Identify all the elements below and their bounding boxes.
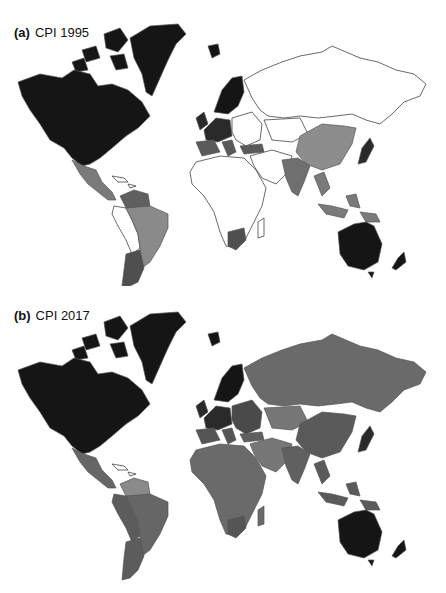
- greenland-region: [130, 312, 186, 384]
- panel-label: (a)CPI 1995: [14, 25, 89, 40]
- australia-region: [338, 510, 382, 558]
- western-europe-region: [204, 406, 232, 430]
- scandinavia-region: [208, 44, 220, 58]
- argentina-chile-region: [122, 250, 144, 286]
- australia-region: [368, 560, 374, 566]
- greenland-region: [130, 24, 186, 96]
- scandinavia-region: [208, 332, 220, 346]
- australia-region: [338, 222, 382, 270]
- southeast-asia-region: [314, 460, 380, 510]
- panel-tag: (a): [14, 25, 30, 40]
- mexico-central-america-region: [72, 448, 116, 488]
- russia-region: [244, 46, 426, 124]
- southern-europe-region: [196, 428, 236, 444]
- australia-region: [368, 272, 374, 278]
- world-map-1995: [0, 0, 446, 286]
- scandinavia-region: [214, 76, 244, 114]
- southeast-asia-region: [314, 172, 380, 222]
- eastern-europe-region: [232, 112, 262, 146]
- turkey-region: [240, 432, 264, 442]
- india-region: [282, 446, 310, 484]
- japan-region: [358, 426, 374, 452]
- panel-tag: (b): [14, 308, 31, 323]
- russia-region: [244, 334, 426, 412]
- panel-title: CPI 2017: [36, 308, 90, 323]
- africa-region: [258, 218, 264, 238]
- western-europe-region: [204, 118, 232, 142]
- north-america-region: [18, 70, 150, 166]
- turkey-region: [240, 144, 264, 154]
- japan-region: [358, 138, 374, 164]
- argentina-chile-region: [122, 538, 144, 580]
- world-map-2017: [0, 286, 446, 593]
- north-america-region: [18, 358, 150, 454]
- caribbean-region: [112, 176, 136, 188]
- panel-cpi-1995: (a)CPI 1995: [0, 0, 446, 286]
- south-africa-region: [228, 516, 246, 538]
- western-europe-region: [196, 112, 208, 130]
- mexico-central-america-region: [72, 160, 116, 200]
- scandinavia-region: [214, 364, 244, 402]
- western-europe-region: [196, 400, 208, 418]
- south-africa-region: [228, 228, 246, 250]
- caribbean-region: [112, 464, 136, 476]
- new-zealand-region: [392, 540, 406, 558]
- new-zealand-region: [392, 252, 406, 270]
- africa-region: [258, 506, 264, 526]
- eastern-europe-region: [232, 400, 262, 434]
- panel-title: CPI 1995: [35, 25, 89, 40]
- panel-cpi-2017: (b)CPI 2017: [0, 286, 446, 593]
- india-region: [282, 158, 310, 196]
- southern-europe-region: [196, 140, 236, 156]
- panel-label: (b)CPI 2017: [14, 308, 90, 323]
